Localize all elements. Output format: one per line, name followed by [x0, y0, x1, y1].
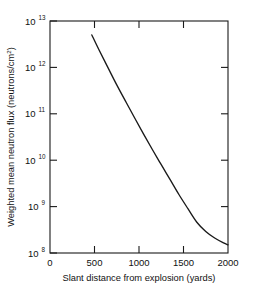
- y-axis-ticks: [50, 21, 57, 253]
- x-axis-title: Slant distance from explosion (yards): [63, 273, 216, 283]
- y-tick-label-1e12: 10: [25, 62, 36, 73]
- x-axis-ticks-top: [95, 21, 184, 28]
- y-axis-ticks-right: [221, 67, 228, 206]
- y-tick-label-1e11: 10: [25, 108, 36, 119]
- y-tick-label-1e10: 10: [25, 155, 36, 166]
- chart-plot: 10 8 10 9 10 10 10 11 10 12 10 13 0 500 …: [0, 0, 254, 298]
- plot-frame: [50, 21, 228, 253]
- y-tick-exp-13: 13: [39, 14, 47, 21]
- y-tick-label-1e8: 10: [28, 248, 39, 259]
- y-axis-title-suffix: ): [6, 47, 16, 50]
- y-axis-title-main: Weighted mean neutron flux (neutrons/cm: [6, 54, 16, 227]
- x-axis-ticks: [95, 246, 184, 253]
- y-tick-exp-9: 9: [42, 199, 46, 206]
- y-tick-exp-12: 12: [39, 60, 47, 67]
- x-tick-label-500: 500: [87, 257, 103, 268]
- y-tick-label-1e9: 10: [28, 201, 39, 212]
- y-axis-title: Weighted mean neutron flux (neutrons/cm2…: [5, 47, 16, 227]
- x-tick-label-0: 0: [47, 257, 52, 268]
- y-axis-title-group: Weighted mean neutron flux (neutrons/cm2…: [5, 47, 16, 227]
- x-tick-labels: 0 500 1000 1500 2000: [47, 257, 238, 268]
- y-tick-label-1e13: 10: [25, 16, 36, 27]
- data-series-line: [92, 35, 228, 245]
- y-tick-exp-8: 8: [42, 246, 46, 253]
- y-tick-exp-11: 11: [39, 106, 46, 113]
- y-tick-exp-10: 10: [39, 153, 47, 160]
- x-tick-label-1500: 1500: [173, 257, 194, 268]
- figure-container: 10 8 10 9 10 10 10 11 10 12 10 13 0 500 …: [0, 0, 254, 298]
- x-tick-label-1000: 1000: [128, 257, 149, 268]
- x-tick-label-2000: 2000: [217, 257, 238, 268]
- y-tick-labels: 10 8 10 9 10 10 10 11 10 12 10 13: [25, 14, 46, 259]
